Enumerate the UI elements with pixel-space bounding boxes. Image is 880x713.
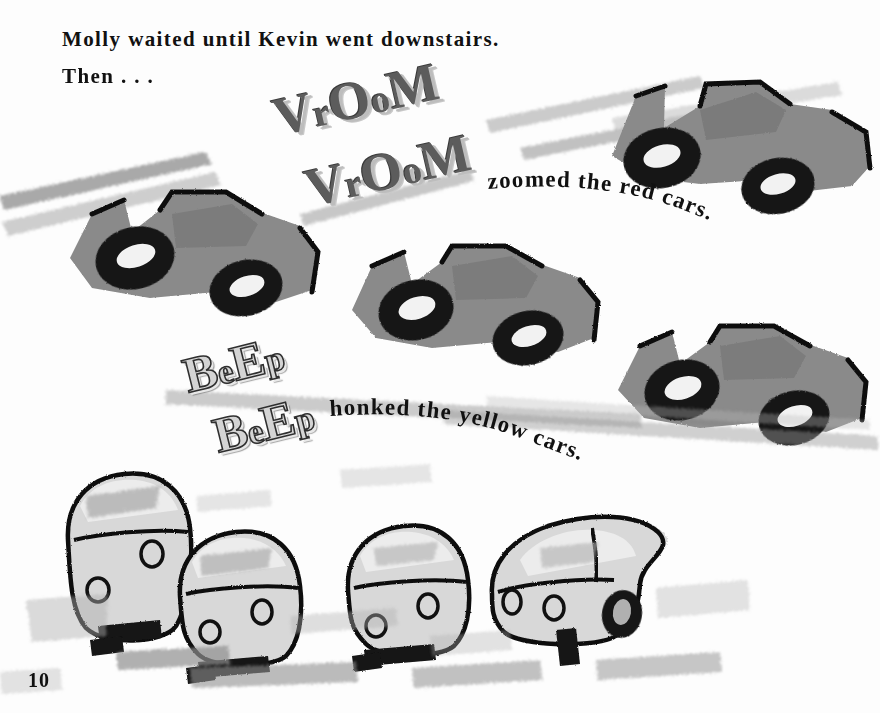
- small-car-3: [348, 526, 469, 672]
- story-line-2: Then . . .: [62, 64, 154, 89]
- caption-yellow-cars-textpath: honked the yellow cars.: [329, 394, 588, 465]
- sfx-char: V: [299, 151, 350, 218]
- page-number: 10: [28, 669, 50, 692]
- caption-red-cars-textpath: zoomed the red cars.: [487, 167, 718, 226]
- small-car-4: [492, 517, 668, 666]
- caption-yellow-cars-svg: honked the yellow cars.: [328, 392, 668, 502]
- storybook-page: Molly waited until Kevin went downstairs…: [0, 0, 880, 713]
- race-car-left: [70, 192, 318, 324]
- small-car-2: [180, 532, 301, 684]
- sfx-vroom-1: VrOoM: [268, 54, 444, 144]
- sfx-beep-2: BeEp: [208, 387, 319, 460]
- caption-yellow-cars: honked the yellow cars.: [329, 394, 588, 465]
- small-car-1: [68, 474, 191, 656]
- sfx-char: V: [267, 80, 318, 147]
- caption-red-cars: zoomed the red cars.: [487, 167, 718, 226]
- race-car-middle: [352, 246, 598, 373]
- sfx-vroom-2: VrOoM: [300, 125, 476, 215]
- story-line-1: Molly waited until Kevin went downstairs…: [62, 27, 500, 52]
- sfx-beep-1: BeEp: [178, 327, 289, 400]
- caption-red-cars-svg: zoomed the red cars.: [486, 155, 816, 265]
